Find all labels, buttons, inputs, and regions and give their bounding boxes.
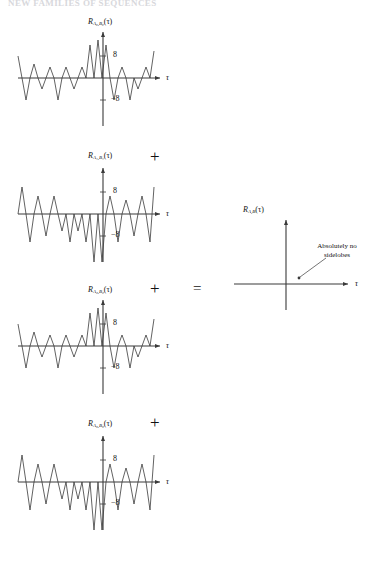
annotation-pointer-dot [298, 277, 301, 280]
plot-a2b2-panel: RA₂,B₂(τ) 8 −8 τ + = [0, 286, 230, 398]
plot-a1b1-axis-label: τ [166, 210, 169, 218]
operator-equals: = [193, 281, 201, 296]
operator-plus-3: + [150, 414, 160, 431]
plot-a3b3-tick-negative: −8 [111, 499, 120, 507]
plot-a0b0-graphic [0, 18, 230, 130]
result-panel: RA,B(τ) Absolutely no sidelobes τ [228, 206, 376, 336]
annotation-line-2: sidelobes [324, 251, 350, 259]
waveform [18, 308, 154, 368]
result-graphic [228, 206, 376, 336]
plot-a2b2-tick-negative: −8 [111, 363, 120, 371]
result-axis-label: τ [355, 280, 358, 288]
plot-a0b0-tick-negative: −8 [111, 95, 120, 103]
plot-a2b2-axis-label: τ [166, 342, 169, 350]
operator-plus-2: + [150, 280, 160, 297]
plot-a0b0-tick-positive: 8 [113, 51, 117, 59]
waveform [18, 40, 154, 100]
waveform [18, 455, 154, 530]
y-axis-arrow [101, 168, 105, 173]
plot-a2b2-graphic [0, 286, 230, 398]
plot-a1b1-tick-negative: −8 [111, 231, 120, 239]
x-axis-arrow [155, 76, 160, 80]
annotation-line-1: Absolutely no [317, 242, 356, 250]
x-axis-arrow [155, 212, 160, 216]
y-axis-arrow [101, 436, 105, 441]
x-axis-arrow [343, 282, 348, 286]
plot-a0b0-axis-label: τ [166, 74, 169, 82]
plot-a3b3-graphic [0, 420, 230, 532]
x-axis-arrow [155, 344, 160, 348]
y-axis-arrow [284, 220, 288, 225]
plot-a3b3-axis-label: τ [166, 478, 169, 486]
plot-a3b3-panel: RA₃,B₃(τ) 8 −8 τ + [0, 420, 230, 532]
plot-a1b1-graphic [0, 152, 230, 264]
y-axis-arrow [101, 300, 105, 305]
plot-a1b1-panel: RA₁,B₁(τ) 8 −8 τ + [0, 152, 230, 264]
x-axis-arrow [155, 480, 160, 484]
plot-a0b0-panel: RA₀,B₀(τ) 8 −8 τ [0, 18, 230, 130]
operator-plus-1: + [150, 148, 160, 165]
running-head: NEW FAMILIES OF SEQUENCES [8, 0, 258, 9]
plot-a1b1-tick-positive: 8 [113, 187, 117, 195]
sidelobes-annotation: Absolutely no sidelobes [304, 242, 370, 261]
plot-a3b3-tick-positive: 8 [113, 455, 117, 463]
plot-a2b2-tick-positive: 8 [113, 319, 117, 327]
waveform [18, 187, 154, 262]
y-axis-arrow [101, 32, 105, 37]
